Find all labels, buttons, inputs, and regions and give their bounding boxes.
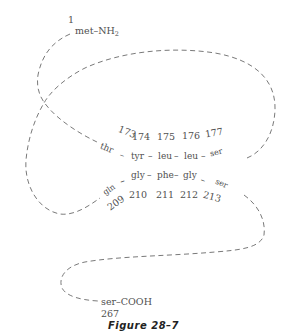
figure-caption: Figure 28–7: [0, 320, 287, 331]
chain-segment-ser213-to-c-terminus: [61, 195, 264, 301]
n-terminus-label: met–NH2: [75, 26, 119, 39]
connector-210-211: –: [147, 170, 152, 180]
n-terminus-subscript: 2: [115, 30, 119, 38]
c-terminus-label: ser–COOH: [101, 297, 152, 307]
polypeptide-chain-diagram: [0, 0, 287, 336]
connector-211-212: –: [174, 170, 179, 180]
connector-175-176: –: [174, 151, 179, 161]
chain-segment-n-terminus-to-thr: [37, 34, 97, 142]
connector-176-177: –: [201, 151, 206, 161]
residue-tyr-174: tyr: [131, 151, 144, 161]
c-terminus-residue-number: 267: [101, 309, 119, 319]
residue-number-175: 175: [157, 132, 175, 142]
chain-segment-ser177-loop-to-gln209: [26, 50, 275, 214]
residue-gly-212: gly: [183, 170, 197, 180]
n-terminus-residue-number: 1: [68, 15, 74, 25]
residue-leu-175: leu: [158, 151, 172, 161]
n-terminus-label-text: met–NH: [75, 25, 115, 36]
residue-phe-211: phe: [157, 170, 174, 180]
residue-number-176: 176: [182, 131, 200, 141]
connector-174-175: –: [148, 151, 153, 161]
residue-gly-210: gly: [131, 170, 145, 180]
residue-number-210: 210: [129, 190, 147, 200]
residue-number-211: 211: [156, 190, 174, 200]
residue-number-212: 212: [180, 190, 198, 200]
residue-number-174: 174: [132, 132, 150, 142]
residue-leu-176: leu: [184, 151, 198, 161]
